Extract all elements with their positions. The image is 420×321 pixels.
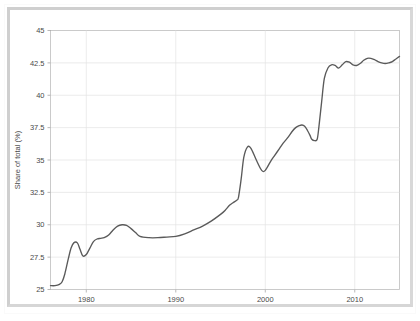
chart-figure: 2527.53032.53537.54042.545 1980199020002… [0, 0, 420, 321]
y-tick-label: 42.5 [30, 59, 45, 68]
x-tick-label: 2010 [346, 295, 363, 304]
y-tick-label: 35 [36, 156, 44, 165]
y-axis-title: Share of total (%) [13, 130, 22, 189]
y-tick-label: 37.5 [30, 123, 45, 132]
y-tick-label: 40 [36, 91, 44, 100]
x-tick-label: 1980 [78, 295, 95, 304]
line-chart: 2527.53032.53537.54042.545 1980199020002… [0, 0, 420, 321]
x-tick-label: 2000 [257, 295, 274, 304]
x-axis-tick-labels: 1980199020002010 [78, 295, 363, 304]
y-tick-label: 27.5 [30, 253, 45, 262]
x-tick-label: 1990 [167, 295, 184, 304]
y-tick-label: 30 [36, 220, 44, 229]
y-tick-label: 25 [36, 285, 44, 294]
y-axis-tick-labels: 2527.53032.53537.54042.545 [30, 26, 45, 294]
y-tick-label: 45 [36, 26, 44, 35]
y-tick-label: 32.5 [30, 188, 45, 197]
